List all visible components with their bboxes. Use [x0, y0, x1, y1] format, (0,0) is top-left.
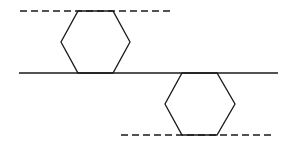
top-hexagon: [61, 11, 130, 73]
bottom-hexagon: [165, 73, 235, 135]
diagram-canvas: [0, 0, 294, 143]
